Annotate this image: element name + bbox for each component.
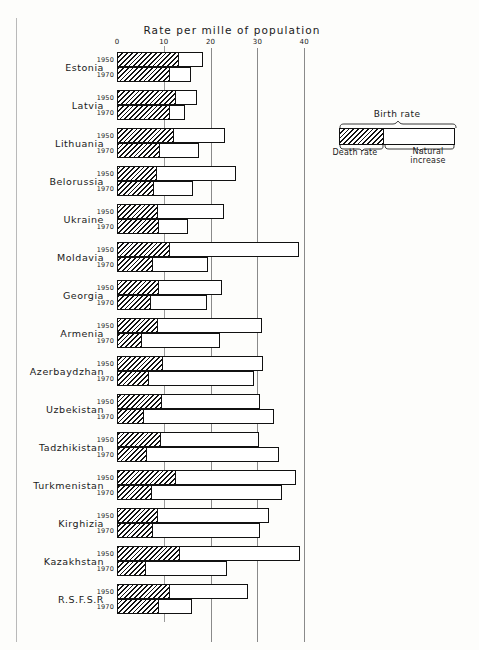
legend-death-rate-label: Death rate [319, 148, 391, 157]
year-label-1970: 1970 [90, 375, 114, 383]
year-label-1970: 1970 [90, 413, 114, 421]
year-label-1970: 1970 [90, 603, 114, 611]
year-label-1950: 1950 [90, 512, 114, 520]
gridline-10-stub [164, 386, 165, 394]
bar-row: 1970 [0, 599, 479, 614]
year-label-1970: 1970 [90, 71, 114, 79]
death-rate-segment [118, 585, 170, 598]
year-label-1950: 1950 [90, 588, 114, 596]
country-group: Kazakhstan19501970 [0, 546, 479, 576]
birth-rate-bar [117, 242, 299, 257]
bar-row: 1950 [0, 204, 479, 219]
birth-rate-bar [117, 356, 263, 371]
bar-row: 1950 [0, 90, 479, 105]
bar-row: 1970 [0, 409, 479, 424]
country-group: Belorussia19501970 [0, 166, 479, 196]
gridline-10-stub [164, 82, 165, 90]
birth-rate-bar [117, 485, 282, 500]
bar-row: 1950 [0, 584, 479, 599]
birth-rate-bar [117, 257, 208, 272]
country-group: Uzbekistan19501970 [0, 394, 479, 424]
birth-rate-bar [117, 409, 274, 424]
gridline-10-stub [164, 234, 165, 242]
birth-rate-bar [117, 599, 192, 614]
birth-rate-bar [117, 166, 236, 181]
death-rate-segment [118, 372, 149, 385]
x-tick-label-10: 10 [159, 38, 168, 46]
bar-row: 1950 [0, 508, 479, 523]
country-group: Turkmenistan19501970 [0, 470, 479, 500]
bar-row: 1970 [0, 333, 479, 348]
legend-death-rate-swatch [340, 129, 384, 144]
death-rate-segment [118, 600, 159, 613]
year-label-1970: 1970 [90, 451, 114, 459]
x-tick-label-40: 40 [300, 38, 309, 46]
birth-rate-bar [117, 295, 207, 310]
death-rate-segment [118, 68, 170, 81]
gridline-10-stub [164, 120, 165, 128]
x-tick-label-30: 30 [253, 38, 262, 46]
country-group: Armenia19501970 [0, 318, 479, 348]
bar-row: 1950 [0, 356, 479, 371]
x-tick-label-20: 20 [206, 38, 215, 46]
birth-rate-bar [117, 128, 225, 143]
x-tick-label-0: 0 [115, 38, 120, 46]
bar-row: 1970 [0, 257, 479, 272]
death-rate-segment [118, 524, 153, 537]
gridline-10-stub [164, 272, 165, 280]
death-rate-segment [118, 509, 158, 522]
year-label-1970: 1970 [90, 109, 114, 117]
bar-row: 1950 [0, 318, 479, 333]
birth-rate-bar [117, 447, 279, 462]
year-label-1970: 1970 [90, 261, 114, 269]
bar-row: 1970 [0, 67, 479, 82]
death-rate-segment [118, 486, 152, 499]
gridline-10-stub [164, 576, 165, 584]
birth-rate-bar [117, 394, 260, 409]
gridline-10-stub [164, 348, 165, 356]
birth-rate-bar [117, 90, 197, 105]
birth-rate-bar [117, 584, 248, 599]
gridline-10-stub [164, 462, 165, 470]
birth-rate-bar [117, 280, 222, 295]
year-label-1950: 1950 [90, 284, 114, 292]
bar-row: 1970 [0, 561, 479, 576]
death-rate-segment [118, 319, 158, 332]
death-rate-segment [118, 357, 163, 370]
birth-rate-bar [117, 181, 193, 196]
year-label-1950: 1950 [90, 170, 114, 178]
year-label-1950: 1950 [90, 398, 114, 406]
country-group: Estonia19501970 [0, 52, 479, 82]
legend-birth-rate-label: Birth rate [339, 109, 455, 119]
birth-rate-bar [117, 219, 188, 234]
death-rate-segment [118, 471, 176, 484]
country-group: Azerbaydzhan19501970 [0, 356, 479, 386]
death-rate-segment [118, 258, 153, 271]
birth-rate-bar [117, 508, 269, 523]
death-rate-segment [118, 281, 159, 294]
year-label-1950: 1950 [90, 322, 114, 330]
birth-rate-bar [117, 333, 220, 348]
bar-row: 1970 [0, 523, 479, 538]
death-rate-segment [118, 395, 162, 408]
year-label-1950: 1950 [90, 550, 114, 558]
year-label-1970: 1970 [90, 565, 114, 573]
year-label-1950: 1950 [90, 94, 114, 102]
death-rate-segment [118, 220, 159, 233]
year-label-1950: 1950 [90, 360, 114, 368]
gridline-10-stub [164, 424, 165, 432]
year-label-1950: 1950 [90, 56, 114, 64]
death-rate-segment [118, 547, 180, 560]
year-label-1950: 1950 [90, 246, 114, 254]
year-label-1970: 1970 [90, 299, 114, 307]
year-label-1970: 1970 [90, 527, 114, 535]
bar-row: 1970 [0, 485, 479, 500]
bar-row: 1970 [0, 295, 479, 310]
death-rate-segment [118, 53, 179, 66]
death-rate-segment [118, 144, 160, 157]
death-rate-segment [118, 243, 170, 256]
death-rate-segment [118, 205, 158, 218]
birth-rate-bar [117, 143, 199, 158]
birth-rate-bar [117, 546, 300, 561]
death-rate-segment [118, 129, 174, 142]
